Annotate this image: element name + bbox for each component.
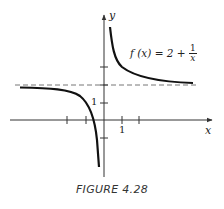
function-label-prefix: f (x) = 2 + (130, 47, 189, 59)
fraction-denominator: x (189, 54, 197, 63)
figure-caption: FIGURE 4.28 (0, 183, 224, 196)
y-axis-label: y (109, 9, 115, 22)
function-label: f (x) = 2 + 1x (130, 44, 197, 63)
function-graph (0, 0, 224, 209)
fraction: 1x (189, 44, 197, 63)
y-tick-label-1: 1 (91, 96, 97, 107)
x-axis-label: x (205, 124, 211, 137)
curve-left-branch (20, 88, 99, 168)
x-tick-label-1: 1 (119, 124, 125, 135)
